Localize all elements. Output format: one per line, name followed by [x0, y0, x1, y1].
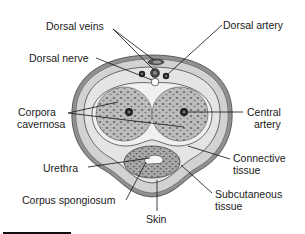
label-corpora-cavernosa-2: cavernosa	[17, 118, 65, 130]
label-dorsal-artery: Dorsal artery	[223, 19, 283, 31]
label-subcutaneous-tissue-2: tissue	[215, 200, 242, 212]
label-urethra: Urethra	[43, 162, 78, 174]
penis-cross-section-diagram: Dorsal veins Dorsal artery Dorsal nerve …	[0, 0, 305, 234]
label-central-artery-1: Central	[247, 106, 281, 118]
dorsal-nerve	[151, 78, 159, 86]
label-dorsal-nerve: Dorsal nerve	[29, 52, 89, 64]
label-corpora-cavernosa-1: Corpora	[18, 106, 56, 118]
label-corpus-spongiosum: Corpus spongiosum	[22, 194, 115, 206]
label-connective-tissue-2: tissue	[233, 164, 260, 176]
divider-rule	[3, 232, 71, 234]
label-connective-tissue-1: Connective	[233, 152, 286, 164]
label-dorsal-veins: Dorsal veins	[46, 20, 104, 32]
corpus-cavernosum-left	[96, 87, 152, 141]
label-subcutaneous-tissue-1: Subcutaneous	[215, 188, 282, 200]
corpus-cavernosum-right	[152, 87, 208, 141]
label-central-artery-2: artery	[254, 118, 281, 130]
label-skin: Skin	[146, 213, 166, 225]
